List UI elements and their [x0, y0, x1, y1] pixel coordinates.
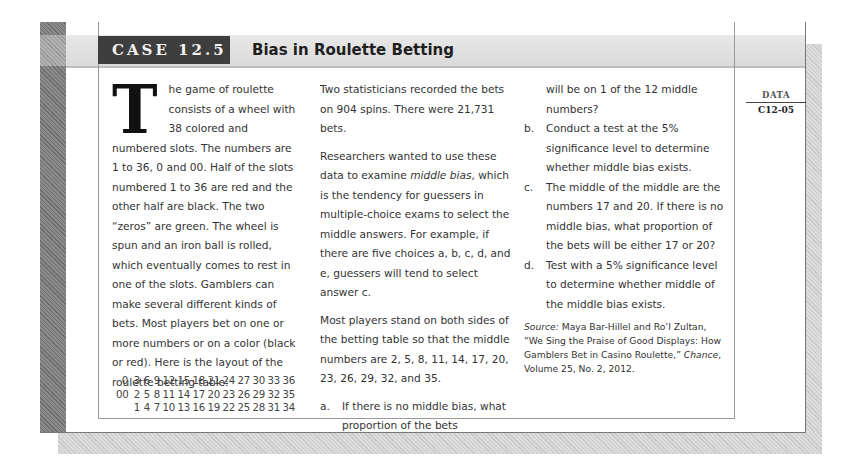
middle-numbers-paragraph: Most players stand on both sides of the … — [320, 311, 516, 389]
betting-number: 3 — [128, 374, 140, 388]
drop-cap: T — [112, 82, 158, 138]
question-label: c. — [524, 178, 546, 256]
data-label: DATA — [746, 90, 806, 103]
betting-number: 29 — [250, 388, 265, 402]
betting-number: 11 — [160, 388, 175, 402]
term-middle-bias: middle bias — [410, 169, 471, 181]
betting-number: 35 — [280, 388, 295, 402]
betting-number: 32 — [265, 388, 280, 402]
column-2: Two statisticians recorded the bets on 9… — [320, 80, 516, 436]
betting-number: 9 — [150, 374, 160, 388]
betting-table-row: 00258111417202326293235 — [116, 388, 295, 402]
betting-number: 21 — [205, 374, 220, 388]
betting-number: 5 — [140, 388, 150, 402]
betting-number: 28 — [250, 401, 265, 415]
betting-number: 34 — [280, 401, 295, 415]
question-label: a. — [320, 397, 342, 436]
question-text: Test with a 5% significance level to det… — [546, 256, 724, 315]
question-text: The middle of the middle are the numbers… — [546, 178, 724, 256]
betting-number: 36 — [280, 374, 295, 388]
betting-number: 23 — [220, 388, 235, 402]
betting-number: 16 — [190, 401, 205, 415]
page-shadow-right — [806, 44, 822, 454]
question-text: If there is no middle bias, what proport… — [342, 397, 516, 436]
betting-table-row: 0369121518212427303336 — [116, 374, 295, 388]
betting-number: 15 — [175, 374, 190, 388]
betting-number: 30 — [250, 374, 265, 388]
betting-number: 33 — [265, 374, 280, 388]
question-label: d. — [524, 256, 546, 315]
betting-number: 12 — [160, 374, 175, 388]
betting-number: 8 — [150, 388, 160, 402]
betting-number: 17 — [190, 388, 205, 402]
betting-table-row: 147101316192225283134 — [116, 401, 295, 415]
question-text: Conduct a test at the 5% significance le… — [546, 119, 724, 178]
question-b: b. Conduct a test at the 5% significance… — [524, 119, 724, 178]
betting-number: 2 — [128, 388, 140, 402]
betting-number: 10 — [160, 401, 175, 415]
betting-number: 26 — [235, 388, 250, 402]
source-citation: Source: Maya Bar-Hillel and Ro’I Zultan,… — [524, 320, 724, 376]
betting-number: 14 — [175, 388, 190, 402]
betting-number: 27 — [235, 374, 250, 388]
question-a-continued: will be on 1 of the 12 middle numbers? — [524, 80, 724, 119]
betting-number: 7 — [150, 401, 160, 415]
case-label: CASE 12.5 — [98, 36, 230, 64]
betting-number: 24 — [220, 374, 235, 388]
betting-number: 0 — [116, 374, 128, 388]
column-3: will be on 1 of the 12 middle numbers? b… — [524, 80, 724, 376]
left-strip-band — [40, 35, 66, 66]
betting-number: 6 — [140, 374, 150, 388]
betting-number: 19 — [205, 401, 220, 415]
betting-number: 4 — [140, 401, 150, 415]
betting-number: 00 — [116, 388, 128, 402]
betting-number: 25 — [235, 401, 250, 415]
betting-table-layout: 0369121518212427303336 00258111417202326… — [116, 374, 295, 415]
column-1: The game of roulette consists of a wheel… — [112, 80, 300, 400]
data-reference: DATA C12-05 — [746, 90, 806, 115]
intro-paragraph: The game of roulette consists of a wheel… — [112, 80, 300, 392]
betting-number: 1 — [128, 401, 140, 415]
betting-number: 31 — [265, 401, 280, 415]
betting-number: 22 — [220, 401, 235, 415]
left-margin-strip — [40, 22, 66, 432]
case-title: Bias in Roulette Betting — [252, 38, 454, 62]
betting-number: 18 — [190, 374, 205, 388]
journal-name: Chance — [684, 349, 718, 360]
betting-number: 13 — [175, 401, 190, 415]
middle-bias-paragraph: Researchers wanted to use these data to … — [320, 147, 516, 303]
question-d: d. Test with a 5% significance level to … — [524, 256, 724, 315]
question-a: a. If there is no middle bias, what prop… — [320, 397, 516, 436]
recording-paragraph: Two statisticians recorded the bets on 9… — [320, 80, 516, 139]
question-c: c. The middle of the middle are the numb… — [524, 178, 724, 256]
betting-number: 20 — [205, 388, 220, 402]
data-code: C12-05 — [746, 103, 806, 115]
question-label: b. — [524, 119, 546, 178]
